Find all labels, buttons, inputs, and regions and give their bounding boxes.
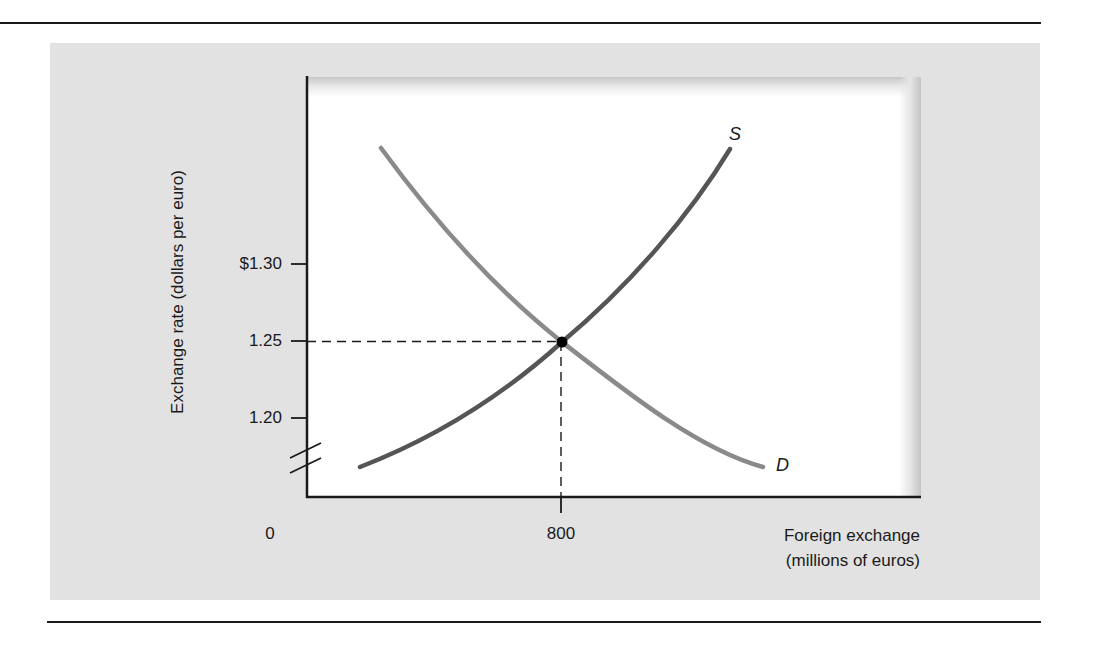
x-tick-label-800: 800 bbox=[531, 524, 591, 544]
y-tick-label-125: 1.25 bbox=[202, 331, 282, 351]
y-tick-label-130: $1.30 bbox=[202, 254, 282, 274]
x-tick-label-0: 0 bbox=[240, 524, 300, 544]
supply-curve-label: S bbox=[729, 124, 741, 145]
equilibrium-point bbox=[557, 337, 568, 348]
y-tick-label-120: 1.20 bbox=[202, 408, 282, 428]
y-axis-title: Exchange rate (dollars per euro) bbox=[168, 170, 188, 414]
x-axis-title: Foreign exchange (millions of euros) bbox=[784, 523, 920, 573]
bottom-rule bbox=[47, 621, 1041, 623]
axis-break-icon bbox=[290, 443, 321, 473]
x-axis-title-line2: (millions of euros) bbox=[784, 548, 920, 573]
chart-svg bbox=[0, 0, 1094, 651]
x-axis-title-line1: Foreign exchange bbox=[784, 523, 920, 548]
demand-curve-label: D bbox=[776, 455, 789, 476]
demand-curve bbox=[381, 148, 763, 467]
